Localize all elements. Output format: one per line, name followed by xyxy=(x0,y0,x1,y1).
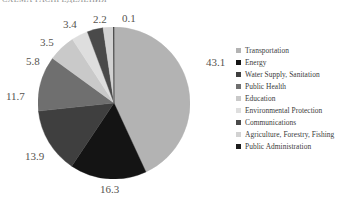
legend-item-label: Environmental Protection xyxy=(245,106,322,115)
legend-item[interactable]: Education xyxy=(236,92,344,104)
legend-item-label: Communications xyxy=(245,118,296,127)
legend-swatch-icon xyxy=(236,144,241,149)
legend-swatch-icon xyxy=(236,72,241,77)
pie-data-label: 0.1 xyxy=(122,13,136,24)
chart-legend: TransportationEnergyWater Supply, Sanita… xyxy=(236,44,344,153)
legend-item[interactable]: Transportation xyxy=(236,44,344,56)
pie-data-label: 43.1 xyxy=(206,57,225,68)
legend-swatch-icon xyxy=(236,132,241,137)
legend-swatch-icon xyxy=(236,96,241,101)
legend-item[interactable]: Environmental Protection xyxy=(236,104,344,116)
page-title-sliver: СХЕМА РАСПРЕДЕЛЕНИЯ xyxy=(2,0,122,3)
legend-swatch-icon xyxy=(236,108,241,113)
legend-item[interactable]: Water Supply, Sanitation xyxy=(236,68,344,80)
legend-item[interactable]: Agriculture, Forestry, Fishing xyxy=(236,129,344,141)
pie-chart xyxy=(38,27,190,179)
pie-data-label: 2.2 xyxy=(93,14,107,25)
pie-data-label: 3.5 xyxy=(40,37,54,48)
chart-page: СХЕМА РАСПРЕДЕЛЕНИЯ 43.116.313.911.75.83… xyxy=(0,0,344,199)
legend-item-label: Public Administration xyxy=(245,142,311,151)
legend-swatch-icon xyxy=(236,120,241,125)
pie-data-label: 13.9 xyxy=(25,151,44,162)
legend-swatch-icon xyxy=(236,48,241,53)
legend-item[interactable]: Communications xyxy=(236,117,344,129)
pie-data-label: 5.8 xyxy=(26,56,40,67)
legend-item-label: Education xyxy=(245,94,275,103)
pie-slices xyxy=(38,27,190,179)
legend-item-label: Public Health xyxy=(245,82,286,91)
legend-item-label: Transportation xyxy=(245,46,289,55)
pie-data-label: 3.4 xyxy=(63,19,77,30)
legend-item[interactable]: Public Health xyxy=(236,80,344,92)
pie-data-label: 16.3 xyxy=(100,184,119,195)
legend-item-label: Water Supply, Sanitation xyxy=(245,70,320,79)
legend-swatch-icon xyxy=(236,60,241,65)
legend-item-label: Energy xyxy=(245,58,267,67)
pie-data-label: 11.7 xyxy=(6,91,25,102)
legend-item[interactable]: Public Administration xyxy=(236,141,344,153)
legend-item-label: Agriculture, Forestry, Fishing xyxy=(245,130,334,139)
legend-item[interactable]: Energy xyxy=(236,56,344,68)
legend-swatch-icon xyxy=(236,84,241,89)
